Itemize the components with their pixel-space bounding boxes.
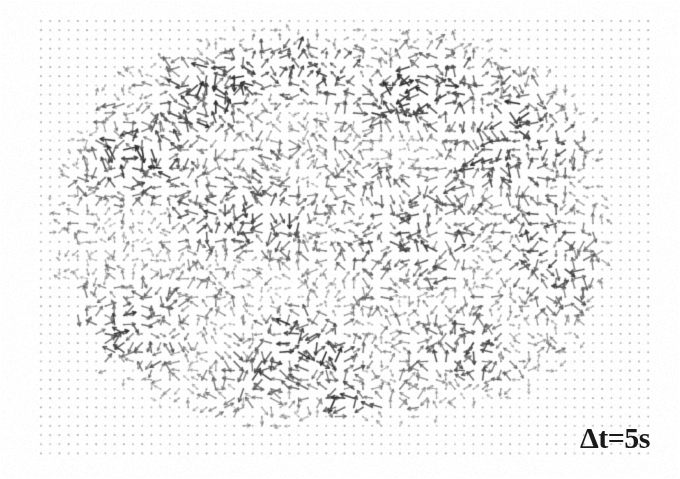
figure-root: Δt=5s	[0, 0, 680, 479]
vector-field-plot	[0, 0, 680, 479]
